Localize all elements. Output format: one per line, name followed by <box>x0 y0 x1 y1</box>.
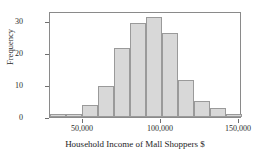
plot-area <box>49 12 241 118</box>
y-tick-label-20: 20 <box>15 50 23 58</box>
histogram-bar <box>50 114 66 117</box>
histogram-bar <box>98 86 114 117</box>
y-tick-label-0: 0 <box>19 114 23 122</box>
histogram-bar <box>210 108 226 117</box>
histogram-bar <box>130 23 146 117</box>
x-tick-label-150000: 150,000 <box>225 124 251 133</box>
y-tick-label-10: 10 <box>15 82 23 90</box>
x-tick-mark-100000 <box>160 119 161 123</box>
histogram-bar <box>194 101 210 117</box>
histogram-figure: Frequency 0 10 20 30 50,000 100,000 150,… <box>0 0 270 161</box>
histogram-bar <box>114 48 130 117</box>
x-tick-label-50000: 50,000 <box>71 124 93 133</box>
histogram-bars <box>50 13 240 117</box>
y-axis: 0 10 20 30 <box>0 0 49 130</box>
histogram-bar <box>146 17 162 117</box>
x-tick-mark-50000 <box>82 119 83 123</box>
x-axis-title: Household Income of Mall Shoppers $ <box>0 139 270 149</box>
histogram-bar <box>162 33 178 117</box>
histogram-bar <box>66 114 82 117</box>
histogram-bar <box>82 105 98 117</box>
y-tick-mark-0 <box>45 118 49 119</box>
y-tick-label-30: 30 <box>15 18 23 26</box>
histogram-bar <box>226 114 242 117</box>
histogram-bar <box>178 80 194 117</box>
x-tick-label-100000: 100,000 <box>147 124 173 133</box>
x-tick-mark-150000 <box>238 119 239 123</box>
